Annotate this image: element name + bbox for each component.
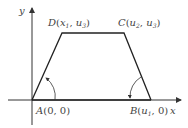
point-b-label: B(u1, 0) bbox=[129, 105, 168, 117]
point-c-label: C(u2, u3) bbox=[118, 17, 160, 29]
trapezoid-shape bbox=[32, 33, 151, 100]
point-a-label: A(0, 0) bbox=[35, 105, 70, 116]
y-axis-label: y bbox=[18, 5, 25, 16]
angle-arc-a bbox=[46, 78, 55, 100]
angle-arc-b bbox=[130, 77, 141, 98]
point-d-label: D(x1, u3) bbox=[47, 17, 90, 29]
x-axis-label: x bbox=[170, 105, 176, 116]
trapezoid-diagram: y x D(x1, u3) C(u2, u3) A(0, 0) B(u1, 0) bbox=[0, 0, 188, 128]
